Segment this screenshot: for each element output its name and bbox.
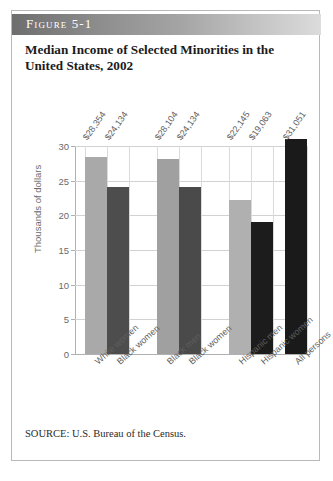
- y-tick-label: 0: [64, 349, 69, 360]
- y-tick-mark: [71, 250, 75, 251]
- figure-card: Figure 5-1 Median Income of Selected Min…: [11, 10, 320, 461]
- y-axis-title: Thousands of dollars: [32, 165, 43, 253]
- y-tick-label: 30: [58, 141, 69, 152]
- y-tick-label: 25: [58, 175, 69, 186]
- vertical-gridline: [201, 146, 202, 354]
- bar-chart: Thousands of dollars 051015202530 $28,35…: [12, 81, 321, 431]
- figure-number-label: Figure 5-1: [26, 16, 92, 32]
- y-tick-mark: [71, 285, 75, 286]
- y-tick-mark: [71, 146, 75, 147]
- bar: [85, 157, 107, 354]
- figure-header-bar: Figure 5-1: [12, 14, 321, 35]
- y-tick-label: 15: [58, 245, 69, 256]
- y-tick-mark: [71, 215, 75, 216]
- plot-area: 051015202530 $28,354$24,134$28,104$24,13…: [75, 146, 308, 354]
- y-tick-label: 10: [58, 279, 69, 290]
- y-tick-mark: [71, 181, 75, 182]
- y-tick-mark: [71, 354, 75, 355]
- figure-title: Median Income of Selected Minorities in …: [25, 42, 309, 74]
- bar: [157, 159, 179, 354]
- vertical-gridline: [273, 146, 274, 354]
- bar-value-label: $31,051: [281, 110, 308, 142]
- y-tick-label: 5: [64, 314, 69, 325]
- vertical-gridline: [129, 146, 130, 354]
- bar: [179, 187, 201, 354]
- y-tick-mark: [71, 319, 75, 320]
- y-tick-label: 20: [58, 210, 69, 221]
- source-note: SOURCE: U.S. Bureau of the Census.: [25, 428, 186, 439]
